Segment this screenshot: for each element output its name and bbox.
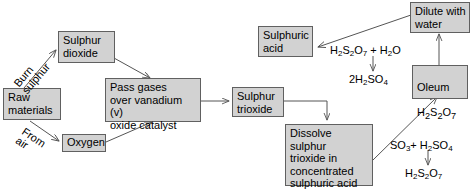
formula-dilution-reactants: H2S2O7 + H2O (330, 44, 401, 60)
node-oxygen[interactable]: Oxygen (62, 134, 106, 152)
node-sulphur-dioxide[interactable]: Sulphur dioxide (58, 31, 115, 63)
node-sulphuric-acid[interactable]: Sulphuric acid (258, 26, 313, 57)
node-raw-materials[interactable]: Raw materials (3, 88, 61, 120)
node-oleum-label: Oleum (417, 81, 449, 93)
edge-sulphur-dioxide-to-pass-gases (114, 58, 150, 78)
formula-oleum-reactants: SO3+ H2SO4 (390, 139, 453, 155)
node-dissolve-sulphur-trioxide[interactable]: Dissolve sulphur trioxide in concentrate… (285, 124, 373, 186)
node-oleum[interactable]: Oleum H2S2O7 (412, 65, 468, 99)
flowchart-canvas: Sulphur dioxide Raw materials Oxygen Pas… (0, 0, 473, 189)
node-dilute-with-water[interactable]: Dilute with water (410, 2, 470, 33)
node-sulphur-trioxide[interactable]: Sulphur trioxide (232, 87, 284, 117)
edge-dilute-to-sulphuric-acid (318, 15, 411, 47)
formula-dilution-products: 2H2SO4 (349, 73, 388, 89)
node-oleum-formula: H2S2O7 (417, 106, 456, 118)
formula-oleum-products: H2S2O7 (405, 167, 442, 183)
edge-sulphur-trioxide-to-dissolve (284, 101, 327, 120)
node-pass-gases[interactable]: Pass gases over vanadium (v) oxide catal… (105, 78, 201, 122)
